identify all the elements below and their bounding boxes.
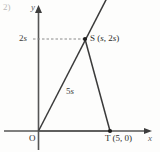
problem-number-label: 2): [3, 3, 11, 12]
x-axis-label: x: [148, 134, 152, 143]
point-label-s: S (s, 2s): [90, 34, 119, 43]
tick-variable: s: [24, 33, 28, 43]
point-s-suffix: ): [116, 33, 119, 43]
triangle-area-label: 5s: [66, 87, 74, 96]
figure-canvas: [0, 0, 160, 152]
y-axis: [35, 5, 42, 150]
point-s-prefix: S (: [90, 33, 100, 43]
point-marker-s: [83, 37, 87, 41]
coordinate-geometry-figure: 2) y x 2s S (s, 2s) T (5, 0) O 5s: [0, 0, 160, 152]
y-axis-tick-label-2s: 2s: [19, 34, 27, 43]
point-label-t: T (5, 0): [105, 134, 132, 143]
area-variable: s: [71, 86, 75, 96]
y-axis-label: y: [31, 3, 35, 12]
segment-s-to-t: [85, 39, 110, 131]
ray-o-through-s: [39, 0, 109, 131]
point-s-separator: , 2: [104, 33, 113, 43]
origin-label: O: [29, 134, 36, 143]
